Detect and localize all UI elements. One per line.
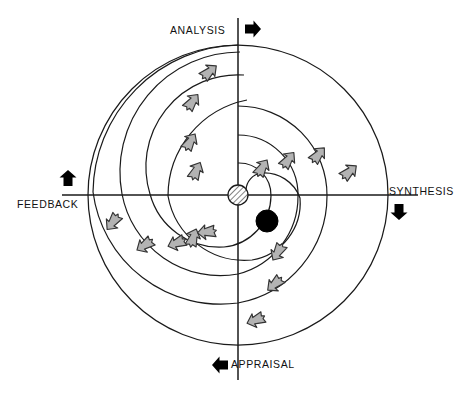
flow-arrow-group-upper-right: [251, 143, 361, 184]
quadrant-label-analysis: ANALYSIS: [170, 25, 225, 36]
quadrant-label-feedback: FEEDBACK: [17, 199, 78, 210]
spiral-arm-2: [146, 75, 271, 247]
quadrant-label-synthesis: SYNTHESIS: [389, 186, 454, 197]
spiral-cycle-diagram: ANALYSIS SYNTHESIS APPRAISAL FEEDBACK: [0, 0, 463, 402]
flow-arrow: [133, 234, 157, 256]
spiral-path-1: [168, 100, 300, 260]
spiral-path-2: [146, 75, 271, 247]
flow-arrow: [185, 159, 206, 182]
origin-marker: [228, 185, 248, 205]
flow-arrow-group-upper-left: [179, 60, 221, 249]
flow-arrow-group-lower-left: [101, 210, 217, 256]
flow-arrow: [337, 160, 361, 183]
flow-arrow: [180, 90, 203, 114]
flow-arrow: [306, 143, 329, 167]
arrow-right-icon: [245, 21, 261, 38]
spiral-path-4: [93, 45, 327, 304]
arrow-up-icon: [60, 170, 77, 186]
spiral-arm-1: [168, 100, 300, 260]
arrow-down-icon: [391, 204, 408, 220]
flow-arrow: [263, 272, 287, 295]
current-state-marker: [256, 210, 278, 232]
arrow-left-icon: [212, 357, 228, 374]
flow-arrow: [166, 233, 189, 253]
quadrant-label-appraisal: APPRAISAL: [231, 359, 295, 370]
flow-arrow-group-lower-right: [245, 240, 290, 330]
spiral-arm-4: [93, 45, 327, 304]
flow-arrow: [267, 240, 289, 264]
flow-arrow: [245, 310, 268, 330]
